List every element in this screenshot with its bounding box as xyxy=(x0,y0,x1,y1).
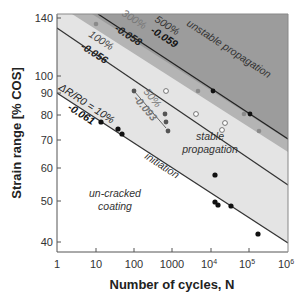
y-tick: 70 xyxy=(41,134,53,146)
marker-10pct xyxy=(228,203,233,208)
x-tick: 1 xyxy=(54,258,60,270)
label-uncracked-2: coating xyxy=(98,200,132,212)
y-tick: 60 xyxy=(41,162,53,174)
marker-500pct xyxy=(211,89,216,94)
marker-10pct xyxy=(119,131,124,136)
x-tick: 106 xyxy=(278,258,294,270)
marker-50pct xyxy=(166,129,171,134)
marker-50pct xyxy=(163,112,168,117)
marker-100pct xyxy=(164,89,169,94)
x-tick: 105 xyxy=(239,258,255,270)
marker-10pct xyxy=(255,231,260,236)
marker-300pct xyxy=(94,22,99,27)
marker-500pct xyxy=(248,112,253,117)
marker-10pct xyxy=(212,199,217,204)
marker-10pct xyxy=(212,172,217,177)
y-tick: 140 xyxy=(35,12,53,24)
marker-100pct xyxy=(223,121,228,126)
label-stable: stable xyxy=(196,130,224,142)
marker-10pct xyxy=(115,126,120,131)
y-tick: 100 xyxy=(35,70,53,82)
marker-300pct xyxy=(196,89,201,94)
y-axis-title: Strain range [% COS] xyxy=(9,67,24,198)
marker-300pct xyxy=(257,129,262,134)
y-tick-labels: 140 100 90 80 70 60 50 40 xyxy=(35,12,53,248)
marker-100pct xyxy=(194,112,199,117)
x-tick: 1000 xyxy=(160,258,184,270)
x-tick-labels: 1 10 100 1000 104 105 106 xyxy=(54,258,294,270)
y-tick: 90 xyxy=(41,87,53,99)
label-stable-2: propagation xyxy=(181,143,238,155)
marker-50pct xyxy=(132,89,137,94)
label-uncracked: un-cracked xyxy=(89,187,142,199)
fatigue-chart: 140 100 90 80 70 60 50 40 1 10 100 1000 … xyxy=(0,0,306,301)
marker-50pct xyxy=(164,120,169,125)
x-tick: 100 xyxy=(125,258,143,270)
x-tick: 10 xyxy=(90,258,102,270)
y-tick: 50 xyxy=(41,195,53,207)
y-tick: 80 xyxy=(41,109,53,121)
y-tick: 40 xyxy=(41,236,53,248)
x-tick: 104 xyxy=(201,258,217,270)
marker-300pct xyxy=(242,112,247,117)
x-axis-title: Number of cycles, N xyxy=(110,277,235,292)
